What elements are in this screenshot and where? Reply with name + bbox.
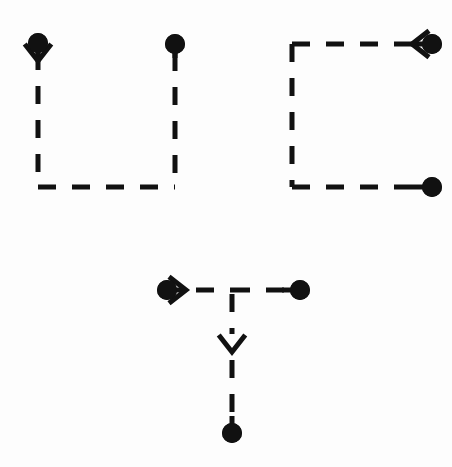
dot-right-end[interactable] [290, 280, 310, 300]
dot-top-right[interactable] [422, 34, 442, 54]
canvas-background [0, 0, 452, 467]
dot-top-left[interactable] [28, 33, 48, 53]
dot-bottom-right[interactable] [422, 177, 442, 197]
diagram-svg [0, 0, 452, 467]
dot-left-start[interactable] [157, 280, 177, 300]
diagram-canvas [0, 0, 452, 467]
dot-top-mid[interactable] [165, 34, 185, 54]
dot-bottom-end[interactable] [222, 423, 242, 443]
